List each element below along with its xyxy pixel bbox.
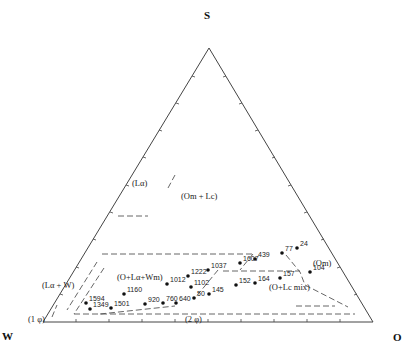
region-label-o-lalpha-wm: (O+Lα+Wm) [117, 272, 163, 282]
data-point-marker [84, 301, 88, 305]
data-point-label: 157 [283, 270, 295, 277]
vertex-label-s: S [204, 9, 210, 21]
data-point-marker [186, 274, 190, 278]
data-point-marker [206, 268, 210, 272]
region-label-two-phi: (2 φ) [185, 314, 202, 324]
data-point-label: 640 [179, 295, 191, 302]
region-label-one-phi: (1 φ) [28, 314, 45, 324]
data-point-label: 1501 [114, 300, 130, 307]
vertex-label-w: W [2, 330, 13, 342]
ternary-diagram: S W O (Lα) (Om + Lc) (O+Lα+Wm) (Om) (Lα … [0, 0, 417, 357]
data-point-marker [88, 307, 92, 311]
data-point-label: 104 [313, 264, 325, 271]
data-point-marker [238, 261, 242, 265]
region-label-om-lc: (Om + Lc) [181, 191, 218, 201]
data-point-label: 760 [166, 295, 178, 302]
data-point-marker [143, 302, 147, 306]
data-point-label: 920 [148, 296, 160, 303]
data-point-label: 152 [239, 277, 251, 284]
data-point-label: 439 [258, 251, 270, 258]
data-point-label: 145 [212, 286, 224, 293]
data-point-label: 1102 [194, 279, 209, 286]
data-point-label: 164 [258, 275, 270, 282]
data-point-marker [253, 281, 257, 285]
data-point-marker [165, 282, 169, 286]
data-point-marker [234, 283, 238, 287]
data-point-label: 1160 [127, 286, 142, 293]
data-point-label: 1037 [211, 262, 227, 269]
data-point-label: 50 [197, 290, 205, 297]
region-label-lalpha-w: (Lα + W) [42, 280, 75, 290]
data-point-label: 1607 [243, 255, 259, 262]
region-label-l-alpha: (Lα) [132, 178, 147, 188]
region-label-o-lc-mix: (O+Lc mix) [269, 282, 310, 292]
data-point-marker [189, 285, 193, 289]
data-point-marker [192, 296, 196, 300]
data-point-label: 77 [285, 245, 293, 252]
data-point-marker [280, 251, 284, 255]
vertex-label-o: O [393, 331, 402, 343]
data-point-marker [207, 292, 211, 296]
data-point-label: 24 [300, 240, 308, 247]
data-point-marker [122, 292, 126, 296]
data-point-label: 1349 [93, 301, 109, 308]
data-point-marker [161, 301, 165, 305]
data-point-marker [278, 276, 282, 280]
data-point-marker [308, 270, 312, 274]
data-point-marker [295, 246, 299, 250]
data-point-label: 1012 [170, 276, 186, 283]
data-point-label: 1222 [191, 268, 207, 275]
data-point-marker [109, 306, 113, 310]
